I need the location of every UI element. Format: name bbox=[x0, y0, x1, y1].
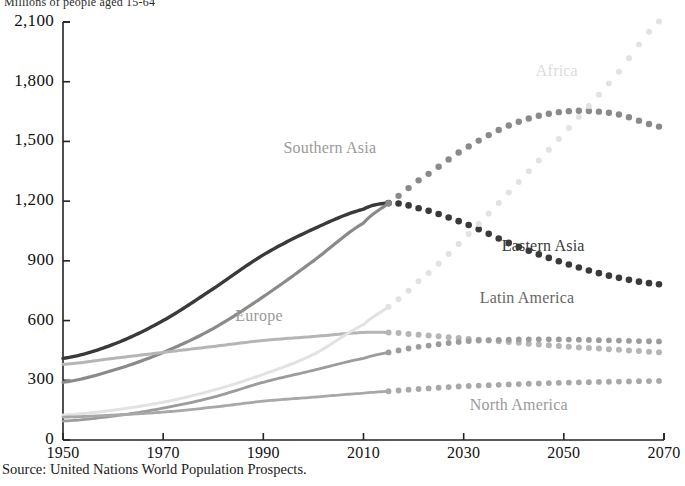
y-axis-tick-1500: 1,500 bbox=[0, 130, 54, 150]
series-label-southern-asia: Southern Asia bbox=[283, 139, 376, 157]
x-axis-tick-2050: 2050 bbox=[534, 444, 594, 462]
y-axis-tick-300: 300 bbox=[0, 369, 54, 389]
x-axis-tick-1970: 1970 bbox=[133, 444, 193, 462]
x-axis-tick-2010: 2010 bbox=[334, 444, 394, 462]
y-axis-tick-1800: 1,800 bbox=[0, 71, 54, 91]
chart-axes bbox=[63, 22, 664, 440]
series-latin-america bbox=[63, 336, 662, 421]
series-label-eastern-asia: Eastern Asia bbox=[502, 237, 585, 255]
y-axis-tick-1200: 1,200 bbox=[0, 190, 54, 210]
y-axis-tick-600: 600 bbox=[0, 310, 54, 330]
y-axis-tick-900: 900 bbox=[0, 250, 54, 270]
series-label-latin-america: Latin America bbox=[480, 289, 575, 307]
x-axis-tick-1950: 1950 bbox=[33, 444, 93, 462]
series-label-europe: Europe bbox=[235, 307, 282, 325]
x-axis-tick-1990: 1990 bbox=[233, 444, 293, 462]
x-axis-tick-2030: 2030 bbox=[434, 444, 494, 462]
series-label-north-america: North America bbox=[470, 396, 568, 414]
x-axis-tick-2070: 2070 bbox=[634, 444, 685, 462]
y-axis-tick-2100: 2,100 bbox=[0, 11, 54, 31]
source-note: Source: United Nations World Population … bbox=[2, 461, 307, 478]
series-label-africa: Africa bbox=[536, 62, 578, 80]
